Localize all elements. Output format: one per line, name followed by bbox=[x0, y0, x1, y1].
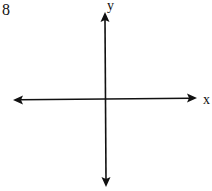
cartesian-axes bbox=[0, 0, 212, 191]
y-axis-label: y bbox=[107, 0, 114, 13]
coordinate-plane-figure: 8 y x bbox=[0, 0, 212, 191]
x-axis-label: x bbox=[203, 93, 210, 107]
